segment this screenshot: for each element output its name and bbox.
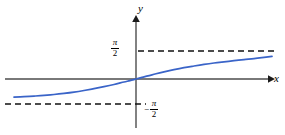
arctangent-graph-figure: y x π 2 − π 2 [0, 0, 285, 135]
y-axis-arrowhead [132, 15, 140, 22]
lower-asymptote-numerator: π [151, 99, 158, 108]
upper-asymptote-numerator: π [112, 38, 119, 47]
x-axis-label: x [274, 73, 279, 84]
plot-canvas [0, 0, 285, 135]
upper-asymptote-fraction: π 2 [111, 38, 119, 58]
upper-asymptote-denominator: 2 [112, 49, 119, 58]
upper-asymptote-label: π 2 [110, 38, 119, 58]
y-axis-label: y [138, 3, 143, 14]
lower-asymptote-fraction: π 2 [150, 99, 158, 119]
arctangent-curve [14, 56, 272, 97]
lower-asymptote-label: − π 2 [144, 99, 158, 119]
lower-asymptote-denominator: 2 [151, 110, 158, 119]
